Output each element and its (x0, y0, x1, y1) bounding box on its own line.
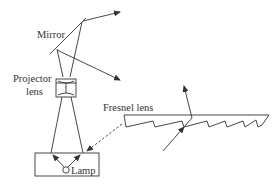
lamp-bulb (63, 167, 69, 173)
projector-lens-label-line2: lens (26, 86, 43, 97)
ray-lens-to-mirror-right (70, 22, 82, 77)
ray-lamp-to-lens-left (51, 97, 62, 153)
reflected-ray-top-arrow (83, 12, 120, 21)
ray-lens-to-mirror-left (57, 49, 63, 77)
fresnel-location-pointer (87, 124, 122, 151)
refracted-ray-arrow (184, 86, 192, 118)
projector-lens (56, 79, 76, 97)
mirror-label: Mirror (37, 29, 65, 40)
projector-lens-label-line1: Projector (13, 73, 52, 84)
lamp-ray-left-arrow (53, 155, 64, 167)
fresnel-lens-label: Fresnel lens (103, 102, 153, 113)
reflected-ray-bottom-arrow (57, 50, 120, 80)
projector-diagram: Mirror Projector lens Lamp Fresnel lens (0, 0, 279, 185)
ray-lamp-to-lens-right (71, 97, 83, 153)
lamp-label: Lamp (71, 165, 96, 176)
fresnel-lens (124, 115, 269, 127)
incident-ray-arrow (163, 127, 184, 151)
